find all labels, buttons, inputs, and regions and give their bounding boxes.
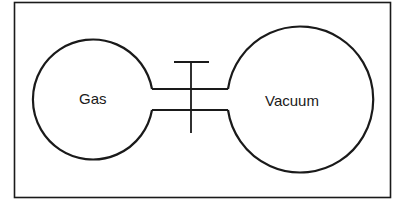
gas-label: Gas bbox=[79, 90, 107, 107]
diagram-frame bbox=[15, 3, 391, 198]
vacuum-label: Vacuum bbox=[265, 92, 319, 109]
stopcock-valve-icon bbox=[174, 62, 209, 133]
diagram-canvas: Gas Vacuum bbox=[0, 0, 403, 215]
